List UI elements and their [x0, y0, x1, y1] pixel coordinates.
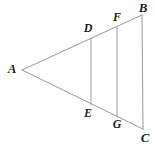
- vertex-label-e: E: [84, 107, 92, 119]
- triangle-svg: [0, 0, 155, 147]
- segment-group: [22, 15, 143, 129]
- segment-ab: [22, 15, 142, 70]
- triangle-figure: A B C D E F G: [0, 0, 155, 147]
- vertex-label-c: C: [141, 131, 150, 144]
- vertex-label-g: G: [113, 118, 122, 130]
- vertex-label-a: A: [8, 62, 17, 75]
- segment-ac: [22, 70, 143, 129]
- segment-bc: [142, 15, 143, 129]
- vertex-label-b: B: [139, 1, 148, 14]
- vertex-label-f: F: [113, 11, 121, 23]
- vertex-label-d: D: [84, 22, 93, 34]
